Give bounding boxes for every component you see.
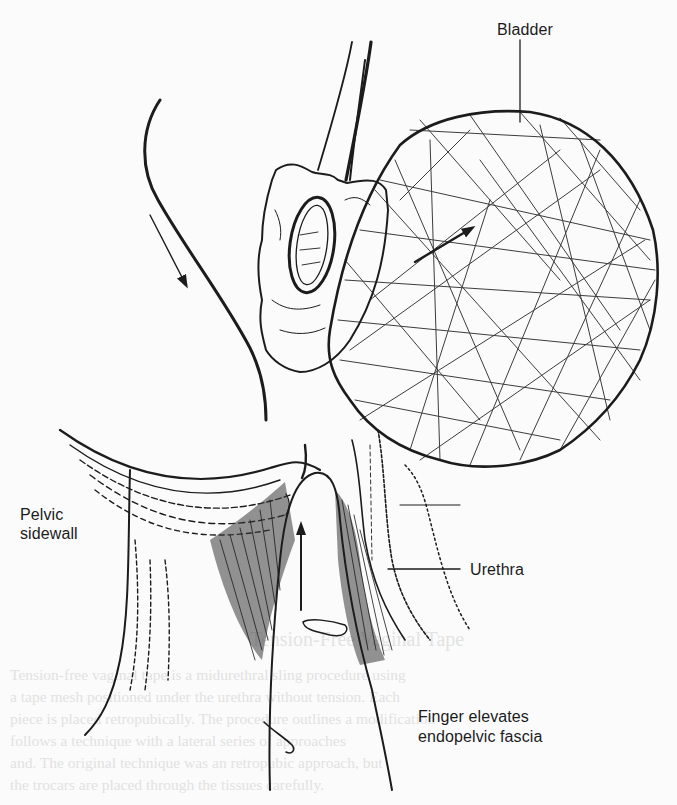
finger-label-line1: Finger elevates — [418, 707, 529, 726]
pelvic-wall-curve — [145, 100, 266, 420]
bladder-arrow-icon — [415, 228, 472, 262]
illustration-canvas — [0, 0, 677, 805]
finger-label-line2: endopelvic fascia — [418, 727, 542, 746]
urethra-label: Urethra — [470, 560, 524, 579]
downward-arrow-icon — [150, 215, 186, 285]
catheter-shaft — [318, 42, 371, 180]
pelvic-sidewall-label-line1: Pelvic — [20, 505, 63, 524]
bladder — [329, 111, 658, 466]
pubic-bone — [258, 164, 388, 372]
pelvic-sidewall-label-line2: sidewall — [20, 524, 78, 543]
bladder-label: Bladder — [497, 20, 553, 39]
anatomical-figure: Tension-Free Vaginal Tape Tension-free v… — [0, 0, 677, 805]
endopelvic-fascia — [60, 430, 320, 735]
